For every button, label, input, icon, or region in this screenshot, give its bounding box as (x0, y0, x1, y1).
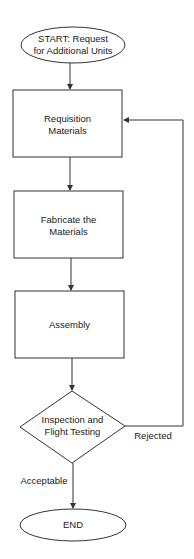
inspection-label-line2: Flight Testing (20, 426, 125, 438)
rejected-loop-line (124, 120, 183, 426)
start-label-line2: for Additional Units (21, 45, 125, 57)
start-label: START: Request for Additional Units (21, 33, 125, 57)
fabricate-label: Fabricate the Materials (14, 214, 123, 238)
inspection-label: Inspection and Flight Testing (20, 414, 125, 438)
fabricate-label-line2: Materials (14, 226, 123, 238)
acceptable-label: Acceptable (16, 475, 72, 487)
end-label: END (20, 519, 126, 531)
requisition-label-line2: Materials (13, 125, 122, 137)
inspection-label-line1: Inspection and (20, 414, 125, 426)
requisition-label-line1: Requisition (13, 113, 122, 125)
assembly-label-line1: Assembly (15, 319, 124, 331)
assembly-label: Assembly (15, 319, 124, 331)
rejected-label: Rejected (128, 430, 178, 442)
start-label-line1: START: Request (21, 33, 125, 45)
requisition-label: Requisition Materials (13, 113, 122, 137)
fabricate-label-line1: Fabricate the (14, 214, 123, 226)
